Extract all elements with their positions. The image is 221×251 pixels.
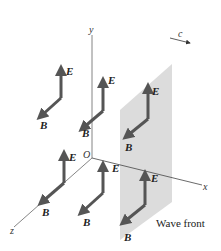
vector-pair-lower-middle: E B [82, 162, 119, 228]
svg-text:B: B [81, 127, 89, 139]
wavefront-label: Wave front [156, 217, 205, 229]
svg-text:E: E [107, 74, 115, 86]
svg-text:E: E [151, 85, 159, 97]
svg-text:B: B [82, 216, 90, 228]
vector-pair-upper-left: E B [39, 65, 73, 131]
svg-text:E: E [65, 65, 73, 77]
z-axis-label: z [9, 225, 14, 236]
svg-text:E: E [68, 151, 76, 163]
vector-pair-upper-middle: E B [81, 74, 115, 139]
svg-text:E: E [111, 162, 119, 174]
svg-text:B: B [39, 119, 47, 131]
vector-pair-lower-left: E B [41, 151, 76, 218]
y-axis-label: y [88, 24, 94, 35]
x-axis-label: x [202, 181, 208, 192]
svg-text:B: B [123, 231, 131, 243]
svg-text:B: B [41, 206, 49, 218]
em-wave-diagram: y x z O c E B E B E B E B E B [0, 0, 221, 251]
origin-label: O [83, 149, 90, 160]
svg-text:B: B [124, 141, 132, 153]
svg-text:E: E [150, 172, 158, 184]
propagation-label: c [178, 28, 183, 39]
